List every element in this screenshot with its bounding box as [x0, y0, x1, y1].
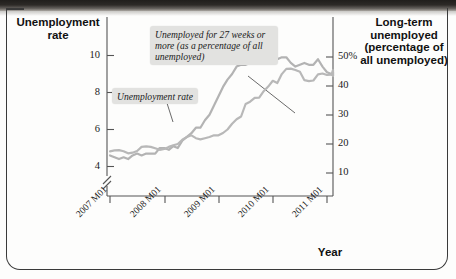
left-tick-label-4: 4	[76, 160, 100, 171]
left-axis-title: Unemployment rate	[14, 16, 102, 41]
series-line-long-term-unemployed	[110, 69, 333, 154]
left-tick-label-8: 8	[76, 86, 100, 97]
right-tick-label-50: 50%	[338, 50, 357, 61]
right-tick-label-40: 40	[338, 79, 349, 90]
right-tick-label-10: 10	[338, 166, 349, 177]
x-axis-title: Year	[300, 246, 360, 259]
chart-figure: Unemployment rate Long-term unemployed (…	[0, 0, 456, 279]
callout-unemployment-rate: Unemployment rate	[112, 88, 198, 104]
left-tick-label-10: 10	[76, 49, 100, 60]
right-axis-title: Long-term unemployed (percentage of all …	[358, 16, 450, 66]
right-tick-label-30: 30	[338, 108, 349, 119]
left-tick-label-6: 6	[76, 123, 100, 134]
right-tick-label-20: 20	[338, 137, 349, 148]
callout-long-term-unemployed: Unemployed for 27 weeks or more (as a pe…	[150, 26, 278, 65]
